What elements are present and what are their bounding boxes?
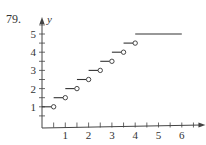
- x-tick-label: 2: [86, 129, 92, 141]
- x-tick-label: 4: [132, 129, 138, 141]
- y-axis-label: y: [46, 13, 52, 25]
- y-tick-label: 3: [31, 64, 37, 76]
- x-tick-label: 1: [63, 129, 69, 141]
- y-tick-label: 5: [31, 28, 37, 40]
- open-endpoint: [51, 105, 55, 109]
- x-axis: [42, 125, 201, 128]
- open-endpoint: [121, 50, 125, 54]
- y-axis-arrow-icon: [40, 17, 45, 24]
- open-endpoint: [98, 68, 102, 72]
- open-endpoint: [86, 77, 90, 81]
- open-endpoint: [110, 59, 114, 63]
- y-tick-label: 2: [31, 83, 37, 95]
- x-tick-label: 5: [156, 129, 162, 141]
- open-endpoint: [63, 96, 67, 100]
- y-tick-label: 4: [31, 46, 37, 58]
- y-tick-label: 1: [31, 101, 37, 113]
- open-endpoint: [133, 41, 137, 45]
- x-axis-arrow-icon: [198, 123, 205, 128]
- x-tick-label: 3: [109, 129, 115, 141]
- x-tick-label: 6: [179, 129, 185, 141]
- open-endpoint: [75, 86, 79, 90]
- step-function-plot: 12345612345xy: [0, 0, 206, 145]
